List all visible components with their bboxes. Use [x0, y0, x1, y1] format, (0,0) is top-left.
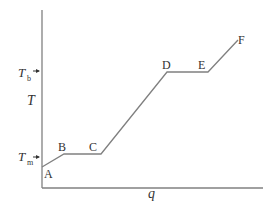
tm-marker: T m [18, 149, 40, 167]
tb-label: T [18, 65, 26, 80]
point-a-label: A [44, 167, 53, 181]
heating-curve-diagram: T q T b T m A B C D E F [0, 0, 277, 211]
y-axis-label: T [27, 93, 36, 108]
point-d-label: D [162, 58, 171, 72]
tm-subscript: m [27, 158, 34, 167]
point-e-label: E [198, 58, 205, 72]
tb-subscript: b [27, 74, 31, 83]
heating-curve [42, 40, 238, 167]
point-c-label: C [89, 140, 97, 154]
tb-marker: T b [18, 65, 40, 83]
x-axis-label: q [148, 186, 155, 201]
tm-label: T [18, 149, 26, 164]
point-f-label: F [238, 33, 245, 47]
point-b-label: B [58, 140, 66, 154]
